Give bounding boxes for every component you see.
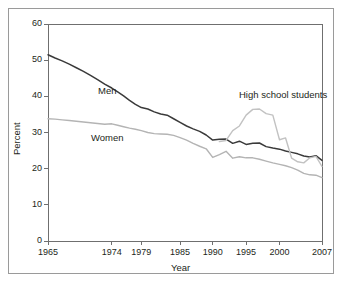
y-axis-ticks [44,24,48,241]
x-axis-title: Year [171,263,190,273]
y-tick-label-60: 60 [14,19,42,28]
line-chart-plot [0,0,345,283]
x-tick-label-2007: 2007 [306,248,338,257]
series-line-men [48,55,322,161]
y-tick-label-40: 40 [14,91,42,100]
y-tick-label-10: 10 [14,200,42,209]
data-series-group [48,55,322,178]
figure-container: 6050403020100 19651974197919851990199520… [0,0,345,283]
x-tick-label-1985: 1985 [164,248,196,257]
x-tick-label-1990: 1990 [197,248,229,257]
y-tick-label-20: 20 [14,164,42,173]
y-tick-label-50: 50 [14,55,42,64]
x-tick-label-1995: 1995 [230,248,262,257]
plot-frame-top-right [48,24,322,241]
series-label-women: Women [91,133,124,143]
x-tick-label-1965: 1965 [32,248,64,257]
x-tick-label-1974: 1974 [96,248,128,257]
x-tick-label-1979: 1979 [125,248,157,257]
x-tick-label-2000: 2000 [263,248,295,257]
series-line-women [48,119,322,178]
series-label-high-school-students: High school students [239,90,327,100]
series-label-men: Men [98,86,116,96]
y-axis-title: Percent [12,122,22,155]
y-tick-label-0: 0 [14,236,42,245]
x-axis-ticks [48,241,322,245]
